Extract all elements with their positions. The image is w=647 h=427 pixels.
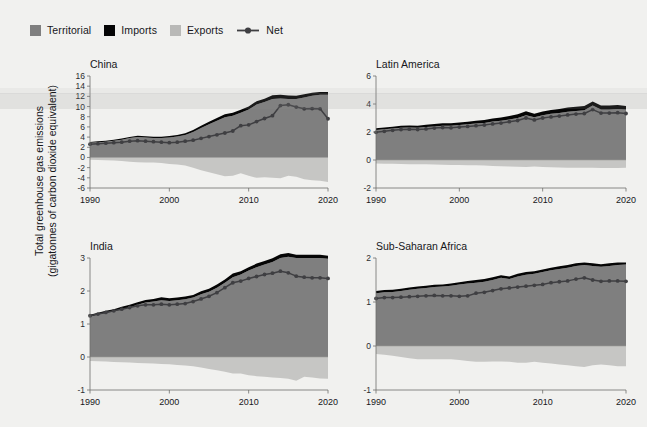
net-marker: [574, 277, 578, 281]
net-marker: [524, 116, 528, 120]
net-marker: [449, 294, 453, 298]
net-marker: [482, 123, 486, 127]
net-marker: [507, 120, 511, 124]
net-marker: [96, 312, 100, 316]
x-tick-label: 2000: [449, 195, 469, 205]
y-tick-label: -2: [77, 163, 85, 173]
net-marker: [223, 286, 227, 290]
x-tick-label: 2020: [616, 397, 636, 407]
legend-item-territorial[interactable]: Territorial: [30, 24, 91, 36]
net-marker: [175, 140, 179, 144]
net-marker: [541, 283, 545, 287]
net-marker: [160, 140, 164, 144]
net-marker: [499, 121, 503, 125]
net-marker: [175, 302, 179, 306]
net-marker: [449, 126, 453, 130]
net-marker: [255, 120, 259, 124]
net-marker: [326, 117, 330, 121]
plot-area: -6-4-202468101214161990200020102020: [62, 58, 342, 206]
net-marker: [607, 279, 611, 283]
y-tick-label: -2: [363, 183, 371, 193]
legend-swatch-territorial-icon: [30, 25, 41, 36]
y-axis-label: Total greenhouse gas emissions (gigatonn…: [33, 41, 59, 321]
legend-item-net[interactable]: Net: [236, 24, 283, 36]
y-tick-label: 10: [76, 102, 86, 112]
net-marker: [263, 117, 267, 121]
net-marker: [191, 300, 195, 304]
panel-title: India: [90, 240, 113, 252]
net-marker: [286, 271, 290, 275]
net-marker: [391, 296, 395, 300]
net-marker: [549, 115, 553, 119]
panel-latin-america: Latin America-202461990200020102020: [348, 58, 643, 206]
legend-item-imports[interactable]: Imports: [104, 24, 157, 36]
net-marker: [207, 294, 211, 298]
legend-item-exports[interactable]: Exports: [170, 24, 223, 36]
net-marker: [532, 118, 536, 122]
net-marker: [407, 127, 411, 131]
x-tick-label: 2000: [449, 397, 469, 407]
net-marker: [191, 138, 195, 142]
net-marker: [399, 295, 403, 299]
net-marker: [144, 139, 148, 143]
net-marker: [607, 111, 611, 115]
net-marker: [326, 277, 330, 281]
panel-sub-saharan-africa: Sub-Saharan Africa-10121990200020102020: [348, 240, 643, 410]
net-marker: [152, 140, 156, 144]
y-tick-label: 14: [76, 81, 86, 91]
net-marker: [624, 112, 628, 116]
net-marker: [128, 139, 132, 143]
net-marker: [231, 129, 235, 133]
panel-title: Latin America: [376, 58, 440, 70]
panel-china: China-6-4-202468101214161990200020102020: [62, 58, 342, 206]
net-marker: [318, 276, 322, 280]
area-exports: [376, 160, 626, 168]
net-marker: [294, 274, 298, 278]
y-tick-label: 16: [76, 71, 86, 81]
area-territorial: [376, 105, 626, 160]
x-tick-label: 2000: [159, 195, 179, 205]
y-tick-label: 4: [80, 132, 85, 142]
net-marker: [466, 294, 470, 298]
net-marker: [223, 131, 227, 135]
x-tick-label: 2000: [159, 397, 179, 407]
net-marker: [616, 111, 620, 115]
y-tick-label: 1: [366, 297, 371, 307]
x-tick-label: 1990: [80, 195, 100, 205]
x-tick-label: 1990: [80, 397, 100, 407]
net-marker: [582, 276, 586, 280]
y-tick-label: 2: [80, 142, 85, 152]
net-marker: [104, 311, 108, 315]
area-exports: [90, 157, 328, 181]
net-marker: [399, 128, 403, 132]
y-tick-label: -4: [77, 173, 85, 183]
net-marker: [566, 279, 570, 283]
y-tick-label: 3: [80, 253, 85, 263]
y-tick-label: 1: [80, 319, 85, 329]
net-marker: [516, 285, 520, 289]
plot-area: -202461990200020102020: [348, 58, 643, 206]
net-marker: [441, 294, 445, 298]
y-tick-label: 2: [80, 286, 85, 296]
net-marker: [407, 295, 411, 299]
net-marker: [120, 307, 124, 311]
net-marker: [167, 141, 171, 145]
net-marker: [231, 281, 235, 285]
x-tick-label: 2010: [533, 397, 553, 407]
y-tick-label: 0: [80, 152, 85, 162]
net-marker: [302, 275, 306, 279]
panel-india: India-101231990200020102020: [62, 240, 342, 410]
net-marker: [382, 129, 386, 133]
net-marker: [416, 128, 420, 132]
net-marker: [499, 287, 503, 291]
plot-area: -101231990200020102020: [62, 240, 342, 410]
net-marker: [112, 141, 116, 145]
net-marker: [104, 141, 108, 145]
net-marker: [128, 306, 132, 310]
net-marker: [507, 286, 511, 290]
net-marker: [183, 139, 187, 143]
x-tick-label: 2010: [239, 195, 259, 205]
net-marker: [591, 278, 595, 282]
y-tick-label: 4: [366, 99, 371, 109]
legend-swatch-exports-icon: [170, 25, 181, 36]
